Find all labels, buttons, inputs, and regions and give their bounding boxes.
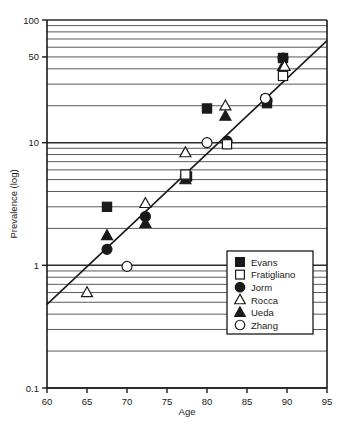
x-axis-ticks: 6065707580859095 xyxy=(42,388,333,407)
x-tick-label: 70 xyxy=(122,396,133,407)
data-point-zhang xyxy=(260,93,270,103)
legend-label-ueda: Ueda xyxy=(251,307,274,318)
data-point-zhang xyxy=(202,138,212,148)
legend-label-zhang: Zhang xyxy=(251,320,278,331)
x-tick-label: 75 xyxy=(162,396,173,407)
y-axis-ticks: 0.111050100 xyxy=(23,15,47,394)
y-tick-label: 1 xyxy=(34,260,39,271)
x-tick-label: 65 xyxy=(82,396,93,407)
x-tick-label: 60 xyxy=(42,396,53,407)
y-tick-label: 0.1 xyxy=(26,383,39,394)
chart-canvas: 6065707580859095 0.111050100 EvansFratig… xyxy=(0,0,344,433)
data-point-fratigliano xyxy=(181,170,190,179)
chart-legend: EvansFratiglianoJormRoccaUedaZhang xyxy=(227,251,313,334)
legend-label-rocca: Rocca xyxy=(251,295,279,306)
legend-label-evans: Evans xyxy=(251,257,278,268)
legend-marker-fratigliano xyxy=(236,270,245,279)
y-tick-label: 10 xyxy=(28,137,39,148)
x-tick-label: 90 xyxy=(282,396,293,407)
x-axis-title: Age xyxy=(179,406,196,417)
prevalence-vs-age-chart: 6065707580859095 0.111050100 EvansFratig… xyxy=(0,0,344,433)
y-tick-label: 100 xyxy=(23,15,39,26)
x-tick-label: 85 xyxy=(242,396,253,407)
data-point-fratigliano xyxy=(278,71,287,80)
data-point-fratigliano xyxy=(222,140,231,149)
y-axis-title: Prevalence (log) xyxy=(8,169,19,238)
legend-marker-evans xyxy=(236,258,245,267)
y-tick-label: 50 xyxy=(28,51,39,62)
data-point-zhang xyxy=(122,261,132,271)
x-tick-label: 95 xyxy=(322,396,333,407)
data-point-evans xyxy=(102,202,111,211)
legend-marker-jorm xyxy=(235,282,245,292)
x-tick-label: 80 xyxy=(202,396,213,407)
legend-marker-zhang xyxy=(235,320,245,330)
legend-label-fratigliano: Fratigliano xyxy=(251,269,295,280)
legend-label-jorm: Jorm xyxy=(251,282,272,293)
data-point-jorm xyxy=(102,244,112,254)
data-point-evans xyxy=(202,104,211,113)
